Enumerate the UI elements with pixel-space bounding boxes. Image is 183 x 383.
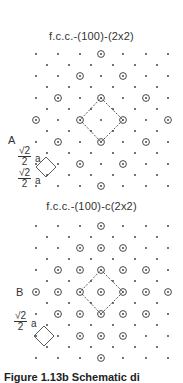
figure-caption: Figure 1.13b Schematic di (4, 371, 140, 383)
